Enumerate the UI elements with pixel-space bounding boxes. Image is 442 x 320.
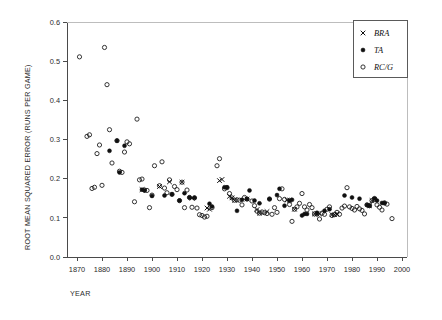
data-point xyxy=(178,199,182,203)
legend-label: BRA xyxy=(374,29,390,38)
data-point xyxy=(350,195,354,199)
scatter-chart: 1870188018901900191019201930194019501960… xyxy=(0,0,442,320)
chart-legend: BRATARC/G xyxy=(353,20,407,77)
x-tick-label: 2000 xyxy=(394,265,410,274)
data-point xyxy=(240,198,244,202)
data-point xyxy=(278,187,282,191)
data-point xyxy=(328,207,332,211)
x-tick-label: 1950 xyxy=(269,265,285,274)
data-point xyxy=(170,192,174,196)
data-point xyxy=(253,199,257,203)
data-point xyxy=(115,139,119,143)
legend-label: TA xyxy=(374,46,384,55)
x-tick-label: 1880 xyxy=(94,265,110,274)
x-tick-label: 1940 xyxy=(244,265,260,274)
x-tick-label: 1970 xyxy=(319,265,335,274)
legend-marker-filled-circle xyxy=(361,48,365,52)
legend-label: RC/G xyxy=(373,63,393,72)
x-tick-label: 1990 xyxy=(369,265,385,274)
data-point xyxy=(268,197,272,201)
x-tick-label: 1870 xyxy=(69,265,85,274)
data-point xyxy=(118,170,122,174)
data-point xyxy=(150,194,154,198)
data-point xyxy=(383,201,387,205)
data-point xyxy=(275,193,279,197)
data-point xyxy=(283,204,287,208)
x-axis-title: YEAR xyxy=(70,289,91,298)
x-tick-label: 1930 xyxy=(219,265,235,274)
y-tick-label: 0.3 xyxy=(50,135,60,144)
x-tick-label: 1920 xyxy=(194,265,210,274)
y-tick-label: 0.5 xyxy=(50,57,60,66)
data-point xyxy=(225,185,229,189)
data-point xyxy=(343,194,347,198)
x-tick-label: 1980 xyxy=(344,265,360,274)
x-tick-label: 1890 xyxy=(119,265,135,274)
data-point xyxy=(258,201,262,205)
y-tick-label: 0.0 xyxy=(50,253,60,262)
x-tick-label: 1900 xyxy=(144,265,160,274)
x-tick-label: 1910 xyxy=(169,265,185,274)
data-point xyxy=(305,212,309,216)
data-point xyxy=(123,144,127,148)
data-point xyxy=(323,209,327,213)
data-point xyxy=(235,209,239,213)
y-tick-label: 0.4 xyxy=(50,96,60,105)
x-tick-label: 1960 xyxy=(294,265,310,274)
y-tick-label: 0.1 xyxy=(50,214,60,223)
y-tick-label: 0.6 xyxy=(50,18,60,27)
data-point xyxy=(358,197,362,201)
data-point xyxy=(108,149,112,153)
y-tick-label: 0.2 xyxy=(50,174,60,183)
data-point xyxy=(248,188,252,192)
data-point xyxy=(163,194,167,198)
y-axis-title: ROOT MEAN SQUARED ERROR (RUNS PER GAME) xyxy=(23,64,32,250)
data-point xyxy=(183,191,187,195)
